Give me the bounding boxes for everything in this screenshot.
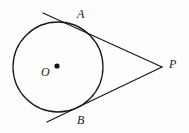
label-point-o-center: O [41,66,50,78]
center-point-dot [54,63,59,68]
label-point-p: P [169,58,176,70]
tangent-line-lower [47,67,162,122]
geometry-canvas [0,0,189,133]
geometry-figure: A B P O [0,0,189,133]
label-point-b: B [77,114,84,126]
label-point-a: A [77,8,84,20]
